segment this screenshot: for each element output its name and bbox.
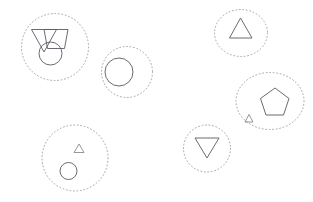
canvas-background [0, 0, 313, 202]
shape-scene-canvas [0, 0, 313, 202]
scene-svg [0, 0, 313, 202]
